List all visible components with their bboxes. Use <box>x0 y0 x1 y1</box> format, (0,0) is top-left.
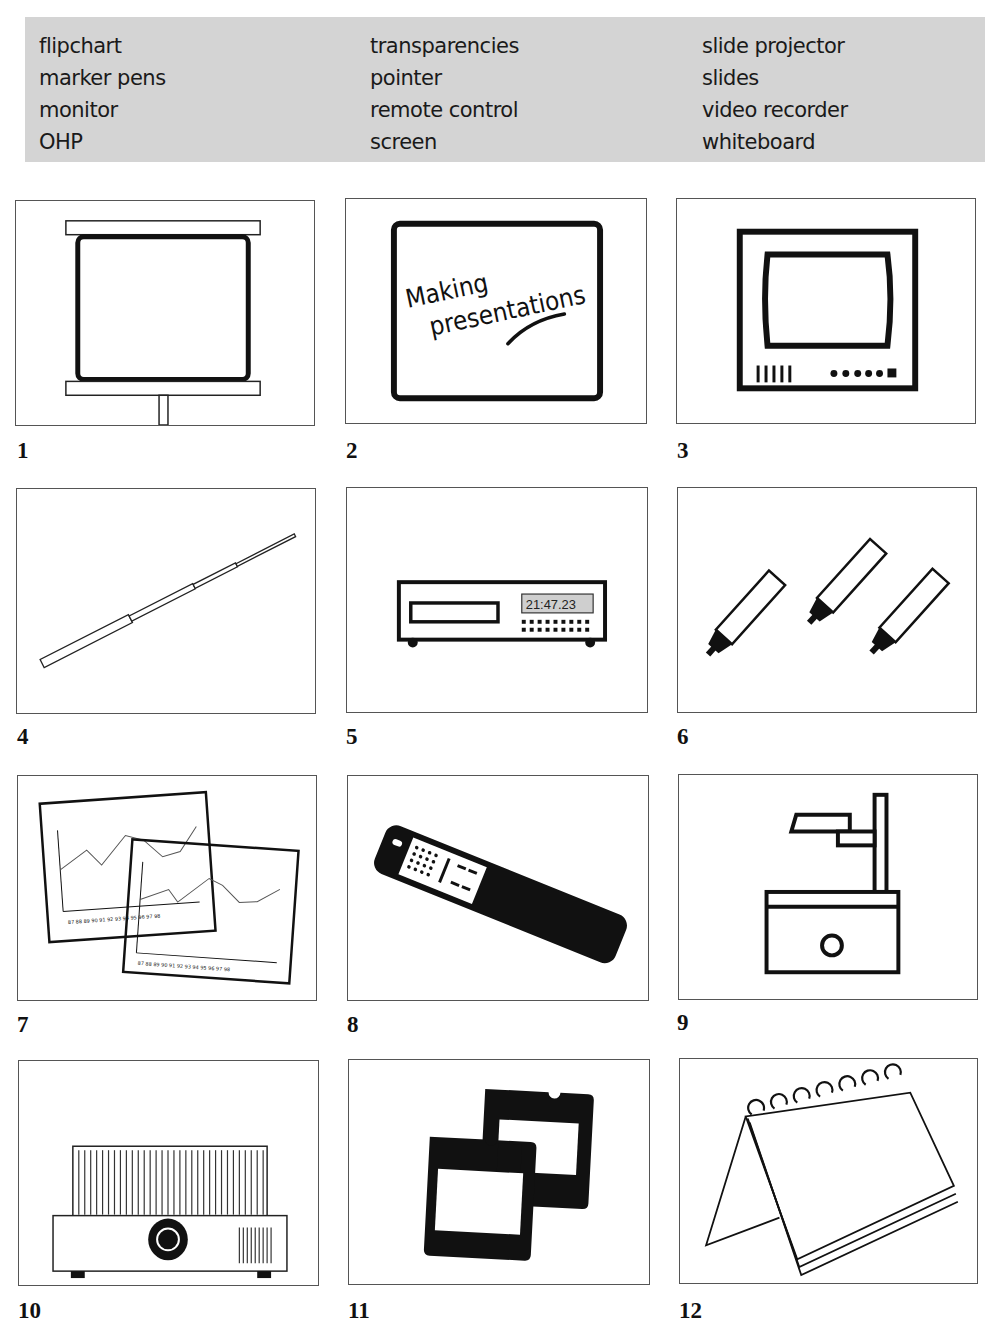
picture-number: 9 <box>677 1010 689 1036</box>
picture-number: 11 <box>348 1298 370 1324</box>
picture-number: 4 <box>17 724 29 750</box>
word-item: slides <box>702 62 848 94</box>
picture-panel-10 <box>18 1060 319 1286</box>
word-item: slide projector <box>702 30 848 62</box>
picture-panel-2: Making presentations <box>345 198 647 424</box>
picture-number: 12 <box>679 1298 702 1324</box>
picture-panel-12 <box>679 1058 978 1284</box>
picture-panel-6 <box>677 487 977 713</box>
picture-panel-4 <box>16 488 316 714</box>
picture-number: 3 <box>677 438 689 464</box>
picture-number: 1 <box>17 438 29 464</box>
marker-pens-icon <box>678 488 976 712</box>
picture-number: 5 <box>346 724 358 750</box>
word-item: OHP <box>39 126 166 158</box>
word-item: video recorder <box>702 94 848 126</box>
slides-icon <box>349 1060 649 1284</box>
picture-panel-5: 21:47.23 <box>346 487 648 713</box>
monitor-icon <box>677 199 975 423</box>
word-item: remote control <box>370 94 519 126</box>
whiteboard-icon: Making presentations <box>346 199 646 423</box>
picture-panel-8 <box>347 775 649 1001</box>
word-column-3: slide projector slides video recorder wh… <box>702 30 848 158</box>
flipchart-icon <box>680 1059 977 1283</box>
picture-panel-7: 87 88 89 90 91 92 93 94 95 96 97 98 87 8… <box>17 775 317 1001</box>
word-item: marker pens <box>39 62 166 94</box>
word-item: transparencies <box>370 30 519 62</box>
transparencies-icon: 87 88 89 90 91 92 93 94 95 96 97 98 87 8… <box>18 776 316 1000</box>
picture-number: 10 <box>18 1298 41 1324</box>
word-box: flipchart marker pens monitor OHP transp… <box>25 17 985 162</box>
picture-panel-1 <box>15 200 315 426</box>
picture-panel-11 <box>348 1059 650 1285</box>
svg-text:21:47.23: 21:47.23 <box>526 597 576 612</box>
remote-control-icon <box>348 776 648 1000</box>
picture-number: 8 <box>347 1012 359 1038</box>
picture-number: 6 <box>677 724 689 750</box>
word-column-1: flipchart marker pens monitor OHP <box>39 30 166 158</box>
svg-text:87 88 89 90 91 92 93 94 95 96: 87 88 89 90 91 92 93 94 95 96 97 98 <box>68 913 161 925</box>
svg-text:87 88 89 90 91 92 93 94 95 96: 87 88 89 90 91 92 93 94 95 96 97 98 <box>137 960 230 972</box>
word-item: screen <box>370 126 519 158</box>
word-column-2: transparencies pointer remote control sc… <box>370 30 519 158</box>
word-item: flipchart <box>39 30 166 62</box>
ohp-icon <box>679 775 977 999</box>
word-item: monitor <box>39 94 166 126</box>
slide-projector-icon <box>19 1061 318 1285</box>
picture-panel-3 <box>676 198 976 424</box>
word-item: pointer <box>370 62 519 94</box>
picture-panel-9 <box>678 774 978 1000</box>
pointer-icon <box>17 489 315 713</box>
picture-number: 7 <box>17 1012 29 1038</box>
word-item: whiteboard <box>702 126 848 158</box>
video-recorder-icon: 21:47.23 <box>347 488 647 712</box>
picture-number: 2 <box>346 438 358 464</box>
projection-screen-icon <box>16 201 314 425</box>
